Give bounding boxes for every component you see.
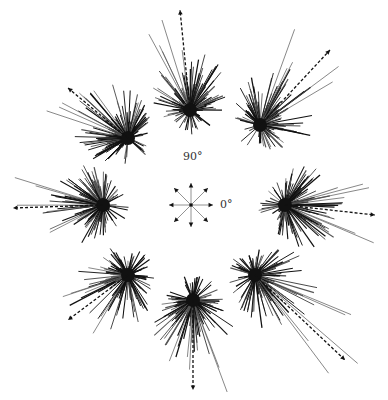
mean-arrowhead-icon	[178, 10, 183, 15]
compass-center	[189, 203, 193, 207]
vector-line	[260, 66, 339, 125]
compass-arrow-icon	[169, 203, 173, 208]
vector-rose-figure	[0, 0, 388, 400]
mean-arrowhead-icon	[370, 212, 375, 217]
mean-arrowhead-icon	[68, 316, 73, 320]
compass-arrow-icon	[189, 223, 194, 227]
mean-arrowhead-icon	[340, 355, 345, 360]
mean-arrowhead-icon	[13, 206, 18, 211]
label-0: 0°	[220, 198, 233, 211]
label-90: 90°	[183, 150, 203, 163]
vector-line	[255, 275, 329, 373]
vector-line	[255, 275, 358, 363]
vector-line	[149, 34, 190, 110]
compass-arrow-icon	[189, 183, 194, 187]
mean-vector-arrow	[260, 50, 330, 125]
mean-arrowhead-icon	[191, 386, 196, 390]
compass-arrow-icon	[209, 203, 213, 208]
mean-vector-arrow	[68, 88, 128, 138]
vector-line	[255, 275, 308, 341]
